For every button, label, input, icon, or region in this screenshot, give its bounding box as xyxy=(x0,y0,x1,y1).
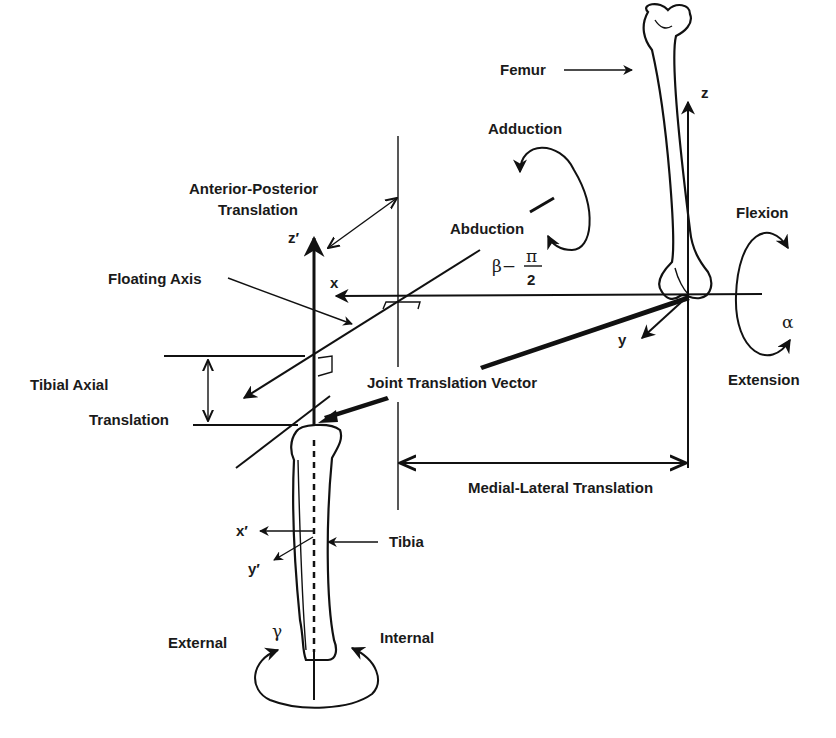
femoral-y-label: y xyxy=(618,331,627,348)
femoral-z-label: z xyxy=(701,84,709,101)
medial-lateral-translation-label: Medial-Lateral Translation xyxy=(468,479,653,496)
internal-rotation-label: Internal xyxy=(380,629,434,646)
ap-translation-label-2: Translation xyxy=(218,201,298,218)
joint-translation-vector-femoral xyxy=(480,296,690,370)
floating-axis-label: Floating Axis xyxy=(108,270,202,287)
flexion-label: Flexion xyxy=(736,204,789,221)
tibial-y-label: y′ xyxy=(248,560,260,577)
floating-axis-segment xyxy=(530,198,554,212)
joint-vector-arrowhead xyxy=(318,410,338,423)
right-angle-mark-lower xyxy=(318,356,332,376)
tibial-z-label: z′ xyxy=(288,229,300,246)
adduction-label: Adduction xyxy=(488,120,562,137)
femur-bone xyxy=(644,4,712,299)
tibial-axial-label-1: Tibial Axial xyxy=(30,376,108,393)
beta-prefix: β− xyxy=(492,256,516,276)
gamma-symbol: γ xyxy=(272,621,282,641)
joint-translation-vector-label: Joint Translation Vector xyxy=(367,374,537,391)
ap-translation-label-1: Anterior-Posterior xyxy=(189,180,318,197)
abduction-label: Abduction xyxy=(450,220,524,237)
extension-label: Extension xyxy=(728,371,800,388)
adduction-abduction-rotation-arrow xyxy=(520,148,590,250)
external-rotation-label: External xyxy=(168,634,227,651)
tibial-x-label: x′ xyxy=(236,522,248,539)
ap-translation-arrow xyxy=(328,198,397,248)
tibia-label: Tibia xyxy=(389,533,424,550)
alpha-symbol: α xyxy=(782,312,794,332)
beta-denominator: 2 xyxy=(527,271,535,288)
femoral-x-label: x xyxy=(330,274,339,291)
knee-joint-coordinate-diagram: z x y Femur Flexion α Extension Adductio… xyxy=(0,0,836,738)
femur-label: Femur xyxy=(500,61,546,78)
tibial-axial-label-2: Translation xyxy=(89,411,169,428)
beta-pi: π xyxy=(526,246,537,266)
